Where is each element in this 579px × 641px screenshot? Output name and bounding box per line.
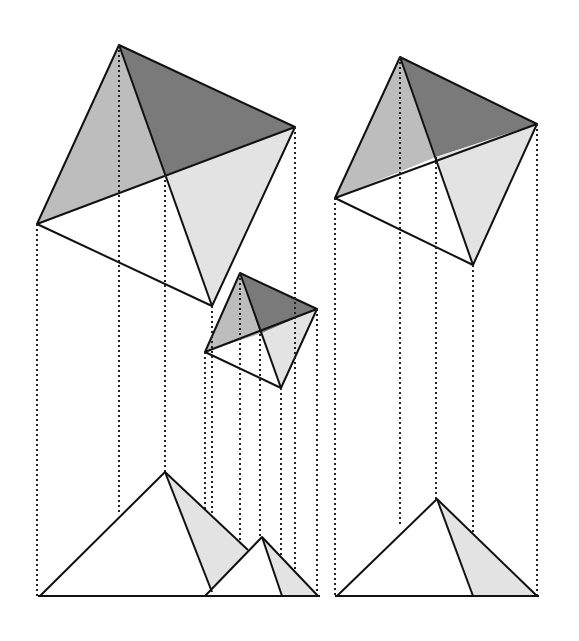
- right-triangle: [335, 499, 539, 596]
- left-triangles: [38, 472, 320, 596]
- projection-diagram: [0, 0, 579, 641]
